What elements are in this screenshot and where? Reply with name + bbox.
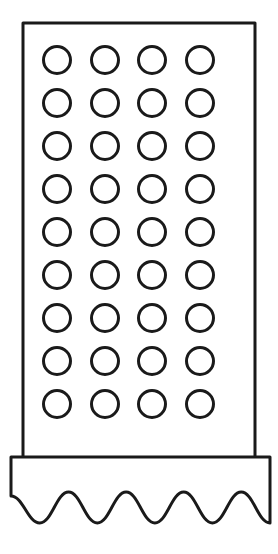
- hole-r5-c1: [44, 219, 71, 246]
- box-grater-line-drawing: [0, 0, 278, 554]
- hole-r8-c2: [92, 348, 119, 375]
- hole-r7-c1: [44, 305, 71, 332]
- hole-r3-c4: [187, 133, 214, 160]
- hole-r5-c2: [92, 219, 119, 246]
- hole-r3-c1: [44, 133, 71, 160]
- hole-r1-c2: [92, 47, 119, 74]
- hole-r8-c1: [44, 348, 71, 375]
- hole-r5-c3: [139, 219, 166, 246]
- hole-r3-c2: [92, 133, 119, 160]
- hole-r6-c2: [92, 262, 119, 289]
- hole-r4-c4: [187, 176, 214, 203]
- hole-r5-c4: [187, 219, 214, 246]
- hole-r4-c1: [44, 176, 71, 203]
- hole-r9-c1: [44, 391, 71, 418]
- hole-r8-c3: [139, 348, 166, 375]
- hole-r7-c3: [139, 305, 166, 332]
- hole-r7-c2: [92, 305, 119, 332]
- hole-r1-c4: [187, 47, 214, 74]
- hole-r8-c4: [187, 348, 214, 375]
- hole-r9-c2: [92, 391, 119, 418]
- hole-r9-c3: [139, 391, 166, 418]
- hole-r7-c4: [187, 305, 214, 332]
- hole-r2-c3: [139, 90, 166, 117]
- hole-r1-c1: [44, 47, 71, 74]
- hole-r6-c4: [187, 262, 214, 289]
- hole-r3-c3: [139, 133, 166, 160]
- hole-r9-c4: [187, 391, 214, 418]
- hole-r2-c4: [187, 90, 214, 117]
- hole-r6-c3: [139, 262, 166, 289]
- drawing-canvas: [0, 0, 278, 554]
- hole-r4-c3: [139, 176, 166, 203]
- hole-r2-c2: [92, 90, 119, 117]
- hole-r6-c1: [44, 262, 71, 289]
- hole-r2-c1: [44, 90, 71, 117]
- hole-r4-c2: [92, 176, 119, 203]
- hole-r1-c3: [139, 47, 166, 74]
